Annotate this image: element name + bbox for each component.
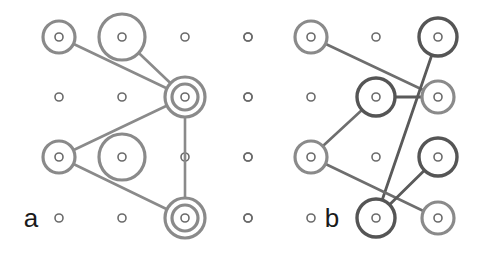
b-n5-ring-outer [295, 141, 327, 173]
b-n6-ring-outer [419, 138, 457, 176]
b-n8-ring-outer [422, 202, 454, 234]
a-n2-ring-outer [99, 14, 145, 60]
panel-a-label: a [24, 203, 39, 233]
b-n2-ring-outer [419, 18, 457, 56]
b-n3-ring-outer [357, 78, 395, 116]
figure-canvas: ab [0, 0, 481, 256]
b-n4-ring-outer [422, 81, 454, 113]
a-n1-ring-outer [43, 21, 75, 53]
figure-root: ab [0, 0, 481, 256]
a-n4-ring-outer [43, 141, 75, 173]
panel-b-label: b [325, 203, 339, 233]
a-n5-ring-outer [99, 134, 145, 180]
a-n3-ring-inner [172, 84, 198, 110]
a-n6-ring-inner [172, 205, 198, 231]
b-n1-ring-outer [295, 21, 327, 53]
b-n7-ring-outer [357, 199, 395, 237]
